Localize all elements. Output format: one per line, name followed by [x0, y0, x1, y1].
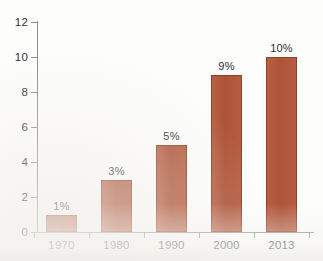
y-tick-label-8: 8 — [0, 87, 28, 99]
x-axis-line — [37, 232, 314, 233]
y-tick-6 — [31, 127, 37, 128]
x-tick-boundary-4 — [254, 232, 255, 238]
bar-1970 — [46, 215, 77, 233]
x-tick-boundary-3 — [199, 232, 200, 238]
bar-value-2013: 10% — [261, 43, 302, 54]
y-tick-4 — [31, 162, 37, 163]
bar-1990 — [156, 145, 187, 233]
bar-2000 — [211, 75, 242, 233]
bar-value-1970: 1% — [41, 201, 82, 212]
x-tick-boundary-0 — [34, 232, 35, 238]
x-label-2013: 2013 — [256, 240, 307, 252]
bar-value-1980: 3% — [96, 166, 137, 177]
chart-screenshot: 0 2 4 6 8 10 12 1% 3% 5% 9% 10% 1970 198… — [0, 0, 323, 261]
bar-chart-plot: 0 2 4 6 8 10 12 1% 3% 5% 9% 10% 1970 198… — [0, 0, 323, 261]
x-label-1990: 1990 — [146, 240, 197, 252]
bar-value-1990: 5% — [151, 131, 192, 142]
x-label-2000: 2000 — [201, 240, 252, 252]
y-tick-label-0: 0 — [0, 227, 28, 239]
bar-value-2000: 9% — [206, 61, 247, 72]
y-tick-label-6: 6 — [0, 122, 28, 134]
x-label-1980: 1980 — [91, 240, 142, 252]
x-tick-boundary-1 — [89, 232, 90, 238]
bar-2013 — [266, 57, 297, 232]
x-label-1970: 1970 — [36, 240, 87, 252]
x-tick-boundary-2 — [144, 232, 145, 238]
y-tick-12 — [31, 22, 37, 23]
bar-1980 — [101, 180, 132, 233]
y-tick-label-2: 2 — [0, 192, 28, 204]
y-tick-label-4: 4 — [0, 157, 28, 169]
y-axis-line — [37, 21, 38, 233]
x-tick-boundary-5 — [309, 232, 310, 238]
y-tick-2 — [31, 197, 37, 198]
y-tick-label-10: 10 — [0, 52, 28, 64]
y-tick-10 — [31, 57, 37, 58]
y-tick-8 — [31, 92, 37, 93]
y-tick-label-12: 12 — [0, 17, 28, 29]
